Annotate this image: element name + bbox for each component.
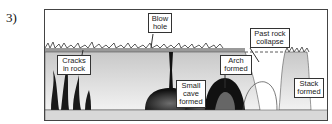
- cliff-top: [45, 48, 245, 52]
- sea-floor: [45, 110, 328, 121]
- grass-line: [45, 42, 223, 48]
- label-arch: Arch formed: [220, 55, 252, 75]
- label-stack: Stack formed: [294, 78, 324, 98]
- label-blowhole: Blow hole: [148, 13, 172, 33]
- question-number: 3): [6, 10, 17, 26]
- coastal-erosion-diagram: Blow hole Cracks in rock Small cave form…: [44, 9, 328, 121]
- label-small-cave: Small cave formed: [176, 80, 206, 108]
- label-past-rock-collapse: Past rock collapse: [250, 28, 290, 48]
- blowhole-arrow: [151, 34, 153, 48]
- label-cracks-in-rock: Cracks in rock: [57, 55, 91, 75]
